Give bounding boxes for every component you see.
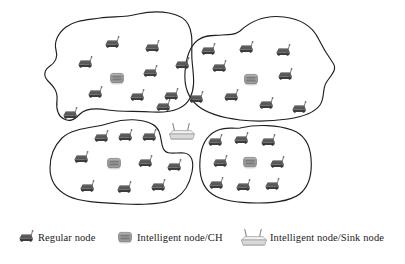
intelligent-node-ch	[243, 157, 256, 168]
network-topology-figure: Regular node Intelligent node/CH Intelli…	[0, 0, 405, 264]
intelligent-node-ch	[244, 74, 257, 85]
intelligent-node-ch-icon	[118, 232, 131, 243]
intelligent-node-ch	[107, 158, 120, 169]
legend-label-intelligent-node-sink: Intelligent node/Sink node	[270, 232, 384, 243]
figure-background	[0, 0, 405, 264]
intelligent-node-ch	[110, 73, 123, 84]
legend-label-intelligent-node-ch: Intelligent node/CH	[137, 232, 223, 243]
legend-label-regular-node: Regular node	[38, 232, 96, 243]
